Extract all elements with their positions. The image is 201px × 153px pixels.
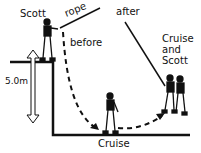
diagram-canvas [0,0,201,153]
before-label: before [70,37,102,48]
arrowhead-1 [90,123,99,130]
cruise-and-scott-figures [162,75,187,115]
swing-path-2 [118,116,162,128]
ledge-outline [10,62,190,135]
scott-figure [40,19,58,61]
cruise-label-top: Cruise [162,33,194,44]
height-label: 5.0m [5,76,28,87]
cruise-figure [103,93,118,134]
and-label: and [162,44,181,55]
scott-label-right: Scott [162,55,188,66]
cruise-label-bottom: Cruise [98,138,130,149]
rope-after [125,22,165,86]
scott-label: Scott [20,8,46,19]
after-label: after [116,6,140,17]
